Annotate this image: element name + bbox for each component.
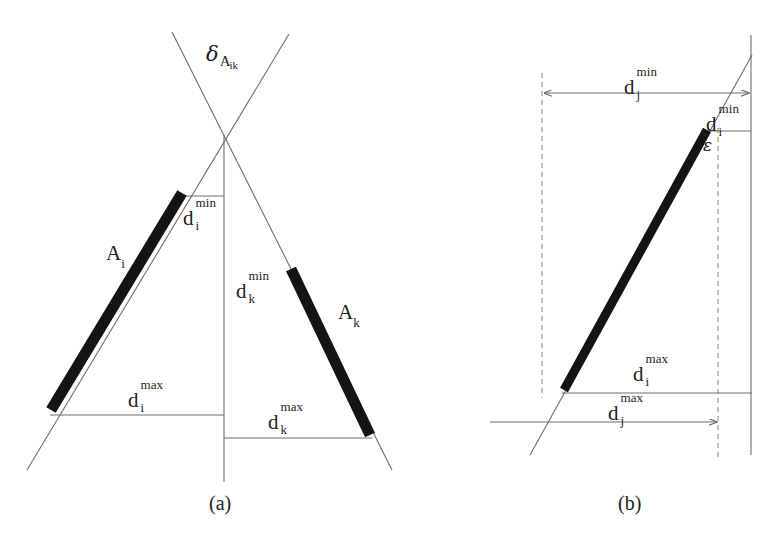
segment-ai-subscript: i bbox=[121, 256, 125, 271]
d-base-char: d bbox=[268, 410, 279, 434]
d-base-char: d bbox=[608, 401, 619, 425]
d-i-min-subscript: i bbox=[719, 125, 723, 138]
d-j-max-label-b: dmaxj bbox=[608, 403, 645, 424]
d-i-max-superscript: max bbox=[646, 352, 669, 365]
d-i-min-superscript: min bbox=[196, 196, 217, 209]
delta-sub-main: A bbox=[220, 53, 231, 69]
d-k-min-superscript: min bbox=[249, 269, 270, 282]
d-k-max-label-a: dmaxk bbox=[268, 412, 305, 433]
delta-symbol: δ bbox=[206, 42, 219, 66]
panel-a-geometry bbox=[27, 32, 392, 482]
d-j-min-label-b: dminj bbox=[624, 77, 661, 98]
d-k-min-label-a: dmink bbox=[236, 281, 273, 302]
d-base-char: d bbox=[236, 279, 247, 303]
d-j-max-subscript: j bbox=[621, 414, 625, 427]
d-i-min-label-b: dmini bbox=[706, 114, 743, 135]
delta-sub-indices: ik bbox=[230, 59, 239, 71]
d-base-char: d bbox=[706, 112, 717, 136]
figure-container: δAik dmini dmink dmaxi dmaxk Ai Ak (a) d… bbox=[0, 0, 773, 539]
d-j-min-superscript: min bbox=[637, 65, 658, 78]
d-i-max-label-a: dmaxi bbox=[128, 390, 165, 411]
delta-aik-label: δAik bbox=[206, 44, 238, 65]
panel-b-caption: (b) bbox=[618, 493, 641, 513]
d-k-min-subscript: k bbox=[249, 292, 256, 305]
d-i-max-superscript: max bbox=[141, 378, 164, 391]
d-j-max-superscript: max bbox=[621, 391, 644, 404]
d-base-char: d bbox=[633, 362, 644, 386]
segment-ak-subscript: k bbox=[353, 315, 360, 330]
segment-bar-b bbox=[564, 130, 707, 390]
epsilon-label: ε bbox=[703, 137, 712, 154]
d-k-max-superscript: max bbox=[281, 400, 304, 413]
d-i-max-subscript: i bbox=[646, 375, 650, 388]
d-base-char: d bbox=[183, 206, 194, 230]
d-i-min-subscript: i bbox=[196, 219, 200, 232]
d-base-char: d bbox=[624, 75, 635, 99]
segment-ai-base: A bbox=[106, 241, 121, 265]
d-i-max-subscript: i bbox=[141, 401, 145, 414]
segment-label-ai: Ai bbox=[106, 243, 125, 267]
d-j-min-subscript: j bbox=[637, 88, 641, 101]
segment-label-ak: Ak bbox=[338, 302, 360, 326]
panel-a-caption: (a) bbox=[209, 493, 231, 513]
d-k-max-subscript: k bbox=[281, 423, 288, 436]
d-base-char: d bbox=[128, 388, 139, 412]
d-i-min-label-a: dmini bbox=[183, 208, 220, 229]
d-i-max-label-b: dmaxi bbox=[633, 364, 670, 385]
segment-ak-base: A bbox=[338, 300, 353, 324]
d-i-min-superscript: min bbox=[719, 102, 740, 115]
